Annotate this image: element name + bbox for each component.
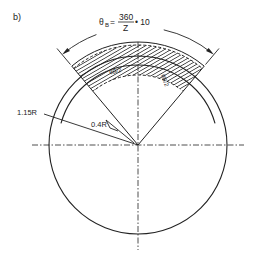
label-1-15r: 1.15R bbox=[17, 108, 38, 117]
label-0-4r: 0.4R bbox=[91, 120, 107, 129]
blade-sector-diagram: b) θ B = 360 Z • 10 1.15R 0.4R θB/2 θB/2 bbox=[0, 0, 257, 262]
blade-angle-formula: θ B = 360 Z • 10 bbox=[99, 12, 150, 33]
panel-label: b) bbox=[13, 12, 21, 22]
formula-subscript: B bbox=[105, 22, 109, 28]
formula-equals: = bbox=[110, 17, 115, 27]
formula-theta: θ bbox=[99, 17, 104, 27]
formula-numerator: 360 bbox=[119, 12, 133, 22]
formula-denominator: Z bbox=[123, 23, 128, 33]
formula-multiplier: • 10 bbox=[135, 17, 150, 27]
leader-1-15r bbox=[44, 114, 138, 145]
angle-dimension-arc-right bbox=[164, 30, 212, 53]
